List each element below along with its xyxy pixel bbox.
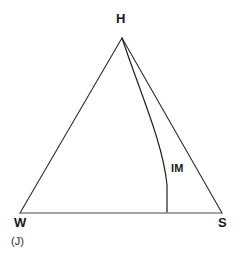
im-boundary-curve bbox=[122, 38, 167, 212]
triangle-edge-h-w bbox=[20, 38, 122, 213]
ternary-triangle-figure: H W S IM (J) bbox=[0, 0, 241, 262]
triangle-edge-h-s bbox=[122, 38, 222, 213]
region-label-im: IM bbox=[171, 163, 184, 174]
figure-caption: (J) bbox=[11, 236, 24, 247]
triangle-diagram-canvas bbox=[0, 0, 241, 262]
vertex-label-w: W bbox=[14, 216, 26, 229]
vertex-label-s: S bbox=[218, 216, 227, 229]
vertex-label-h: H bbox=[116, 12, 125, 25]
